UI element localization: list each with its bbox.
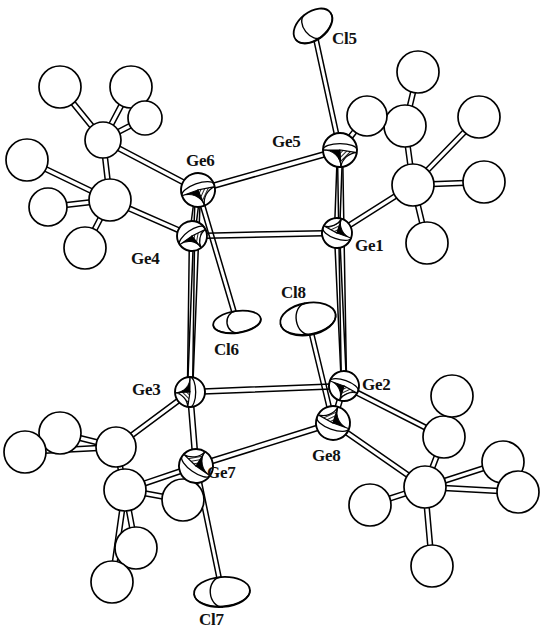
substituent-bond bbox=[116, 145, 186, 185]
substituent-group-silyl-lower-right bbox=[349, 375, 539, 587]
atom-label-ge7: Ge7 bbox=[207, 464, 236, 481]
atom-label-ge6: Ge6 bbox=[186, 152, 215, 169]
germanium-ellipsoid-Ge6 bbox=[176, 168, 220, 212]
germanium-ellipsoid-Ge5 bbox=[323, 133, 357, 167]
germanium-ellipsoid-Ge3 bbox=[175, 377, 205, 407]
carbon-sphere bbox=[463, 161, 505, 203]
carbon-sphere bbox=[458, 96, 500, 138]
substituent-group-silyl-upper-right bbox=[347, 51, 505, 264]
cluster-bond bbox=[212, 152, 327, 189]
carbon-sphere bbox=[39, 66, 81, 108]
cluster-bond bbox=[210, 425, 320, 464]
cluster-bond bbox=[188, 405, 197, 452]
carbon-sphere bbox=[128, 101, 162, 135]
carbon-sphere bbox=[347, 96, 387, 136]
atom-label-ge4: Ge4 bbox=[131, 250, 160, 267]
substituent-bond bbox=[425, 129, 468, 173]
substituent-bond bbox=[344, 430, 411, 479]
carbon-sphere bbox=[96, 427, 136, 467]
substituent-bond bbox=[444, 486, 499, 494]
ge-cl-bond bbox=[309, 332, 332, 409]
carbon-sphere bbox=[349, 484, 391, 526]
atom-label-ge3: Ge3 bbox=[132, 381, 161, 398]
substituent-bond bbox=[442, 466, 485, 484]
carbon-sphere bbox=[29, 188, 67, 226]
ge-cl-bond bbox=[200, 204, 236, 314]
carbon-sphere bbox=[91, 561, 133, 603]
chlorine-ellipsoid-Cl8 bbox=[278, 298, 339, 339]
chlorine-ellipsoid-Cl6 bbox=[212, 308, 263, 336]
cluster-bond bbox=[205, 231, 324, 239]
substituent-bond bbox=[126, 205, 181, 233]
carbon-sphere bbox=[411, 545, 453, 587]
substituent-bond bbox=[424, 506, 432, 548]
carbon-sphere bbox=[85, 122, 121, 158]
atom-label-cl5: Cl5 bbox=[332, 30, 357, 47]
carbon-sphere bbox=[431, 375, 473, 417]
substituent-bond bbox=[102, 156, 110, 182]
atom-layer bbox=[4, 1, 539, 608]
carbon-sphere bbox=[423, 416, 465, 458]
germanium-ellipsoid-Ge1 bbox=[318, 214, 356, 252]
substituent-bond bbox=[65, 200, 92, 208]
ge-cl-bond bbox=[313, 37, 339, 136]
carbon-sphere bbox=[6, 139, 48, 181]
ortep-structure-figure bbox=[0, 0, 543, 636]
germanium-ellipsoid-Ge2 bbox=[325, 367, 363, 405]
carbon-sphere bbox=[64, 227, 106, 269]
substituent-bond bbox=[354, 390, 428, 431]
carbon-sphere bbox=[404, 466, 446, 508]
substituent-bond bbox=[347, 193, 399, 228]
atom-label-ge1: Ge1 bbox=[355, 237, 384, 254]
substituent-bond bbox=[432, 180, 465, 186]
carbon-sphere bbox=[392, 164, 434, 206]
substituent-group-silyl-upper-left bbox=[6, 66, 162, 269]
carbon-sphere bbox=[497, 471, 539, 513]
substituent-bond bbox=[70, 100, 95, 129]
atom-label-cl8: Cl8 bbox=[281, 284, 306, 301]
germanium-ellipsoid-Ge8 bbox=[311, 401, 355, 445]
atom-label-ge5: Ge5 bbox=[272, 133, 301, 150]
carbon-sphere bbox=[162, 479, 204, 521]
atom-label-cl6: Cl6 bbox=[214, 341, 239, 358]
carbon-sphere bbox=[89, 179, 131, 221]
carbon-sphere bbox=[406, 222, 448, 264]
cluster-bond bbox=[203, 384, 331, 394]
atom-label-ge2: Ge2 bbox=[362, 376, 391, 393]
germanium-ellipsoid-Ge4 bbox=[171, 215, 213, 257]
carbon-sphere bbox=[397, 51, 439, 93]
atom-label-cl7: Cl7 bbox=[199, 611, 224, 628]
substituent-bond bbox=[129, 398, 181, 438]
substituent-group-silyl-lower-left bbox=[4, 412, 204, 603]
chlorine-ellipsoid-Cl7 bbox=[193, 575, 251, 609]
atom-label-ge8: Ge8 bbox=[312, 447, 341, 464]
carbon-sphere bbox=[384, 105, 426, 147]
carbon-sphere bbox=[104, 469, 146, 511]
carbon-sphere bbox=[4, 431, 46, 473]
